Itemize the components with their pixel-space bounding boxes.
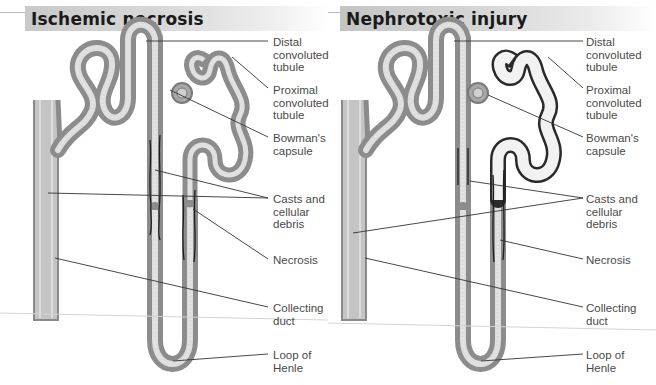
bowmans-capsule	[172, 83, 192, 103]
label-distal: Distal convoluted tubule	[273, 36, 329, 74]
leader-proximal	[548, 57, 583, 88]
label-bowman: Bowman's capsule	[273, 132, 326, 157]
distal-convoluted-tubule	[366, 25, 463, 210]
label-loop: Loop of Henle	[273, 349, 311, 374]
panel-ischemic-necrosis: Ischemic necrosis	[0, 0, 328, 385]
label-bowman: Bowman's capsule	[586, 132, 639, 157]
leader-necrosis	[193, 209, 268, 259]
label-loop: Loop of Henle	[586, 349, 624, 374]
distal-convoluted-tubule	[58, 25, 155, 210]
proximal-convoluted-tubule	[190, 58, 246, 200]
label-necrosis: Necrosis	[586, 254, 631, 267]
bowmans-capsule	[468, 83, 488, 103]
leader-bowman	[488, 95, 583, 137]
label-collecting: Collecting duct	[586, 302, 637, 327]
label-casts: Casts and cellular debris	[586, 193, 638, 231]
label-proximal: Proximal convoluted tubule	[273, 84, 329, 122]
label-proximal: Proximal convoluted tubule	[586, 84, 642, 122]
collecting-duct	[342, 100, 368, 320]
leader-collecting	[365, 258, 583, 307]
collecting-duct	[34, 100, 60, 320]
leader-necrosis	[500, 240, 583, 259]
label-casts: Casts and cellular debris	[273, 193, 325, 231]
proximal-convoluted-tubule	[498, 58, 554, 200]
leader-casts-1	[155, 170, 268, 198]
label-collecting: Collecting duct	[273, 302, 324, 327]
leader-casts-1	[470, 181, 583, 198]
leader-bowman	[170, 90, 268, 137]
label-necrosis: Necrosis	[273, 254, 318, 267]
label-distal: Distal convoluted tubule	[586, 36, 642, 74]
panel-nephrotoxic-injury: Nephrotoxic injury	[328, 0, 656, 385]
